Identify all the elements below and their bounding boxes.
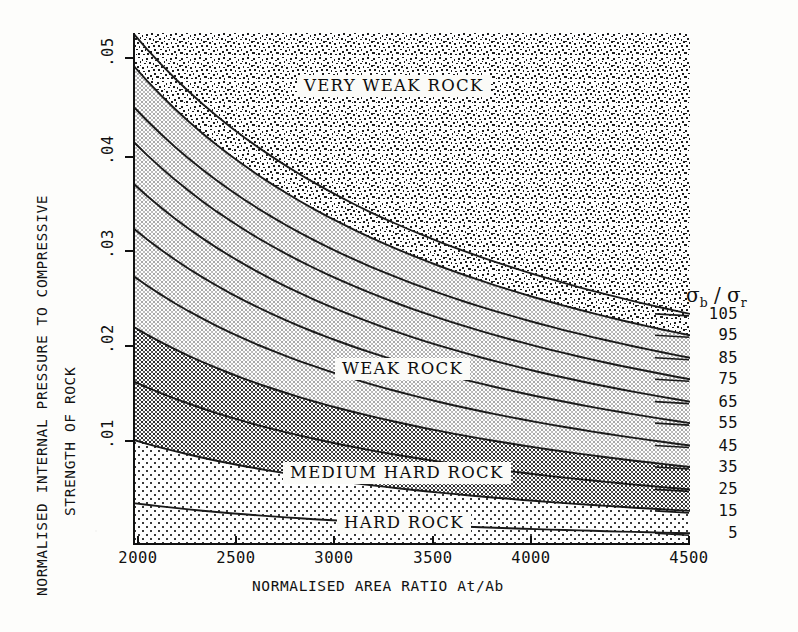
y-tick-label-01: .01 bbox=[99, 412, 117, 456]
x-tick-label-4500: 4500 bbox=[654, 549, 724, 567]
x-tick-label-2500: 2500 bbox=[201, 549, 271, 567]
y-tick-label-05: .05 bbox=[99, 30, 117, 74]
y-tick-label-04: .04 bbox=[99, 128, 117, 172]
y-tick-mark-03 bbox=[125, 250, 134, 252]
x-axis-title: NORMALISED AREA RATIO At/Ab bbox=[252, 578, 504, 594]
curve-label-25: 25 bbox=[694, 480, 738, 498]
y-tick-label-03: .03 bbox=[99, 222, 117, 266]
x-tick-label-3000: 3000 bbox=[299, 549, 369, 567]
x-tick-label-4000: 4000 bbox=[496, 549, 566, 567]
y-axis-spine bbox=[133, 33, 135, 545]
y-tick-mark-04 bbox=[125, 156, 134, 158]
curve-label-105: 105 bbox=[694, 305, 738, 323]
sigma-r-symbol: σr bbox=[727, 283, 747, 307]
x-tick-mark-2000 bbox=[137, 536, 139, 545]
x-tick-mark-3000 bbox=[333, 536, 335, 545]
zone-label-weak-rock: WEAK ROCK bbox=[335, 358, 470, 380]
x-tick-mark-4000 bbox=[530, 536, 532, 545]
curve-label-65: 65 bbox=[694, 393, 738, 411]
zone-label-medium-hard-rock: MEDIUM HARD ROCK bbox=[283, 462, 511, 484]
curve-label-5: 5 bbox=[694, 524, 738, 542]
zone-label-very-weak-rock: VERY WEAK ROCK bbox=[297, 75, 491, 97]
y-axis-title-line-1: NORMALISED INTERNAL PRESSURE TO COMPRESS… bbox=[34, 195, 50, 596]
curve-label-95: 95 bbox=[694, 326, 738, 344]
curve-label-15: 15 bbox=[694, 502, 738, 520]
curve-label-45: 45 bbox=[694, 437, 738, 455]
curve-label-75: 75 bbox=[694, 370, 738, 388]
x-tick-mark-2500 bbox=[235, 536, 237, 545]
curve-label-85: 85 bbox=[694, 349, 738, 367]
y-tick-mark-05 bbox=[125, 57, 134, 59]
x-tick-label-2000: 2000 bbox=[103, 549, 173, 567]
y-tick-label-02: .02 bbox=[99, 317, 117, 361]
x-tick-label-3500: 3500 bbox=[398, 549, 468, 567]
zone-label-hard-rock: HARD ROCK bbox=[337, 512, 471, 534]
legend-slash: / bbox=[708, 283, 727, 307]
y-axis-title-line-2: STRENGTH OF ROCK bbox=[62, 367, 78, 516]
curve-label-55: 55 bbox=[694, 414, 738, 432]
sigma-b-symbol: σb bbox=[686, 283, 708, 307]
legend-leader-lines bbox=[655, 300, 697, 550]
x-tick-mark-3500 bbox=[432, 536, 434, 545]
x-axis-spine bbox=[133, 543, 690, 545]
y-tick-mark-02 bbox=[125, 345, 134, 347]
curve-label-35: 35 bbox=[694, 458, 738, 476]
y-tick-mark-01 bbox=[125, 440, 134, 442]
